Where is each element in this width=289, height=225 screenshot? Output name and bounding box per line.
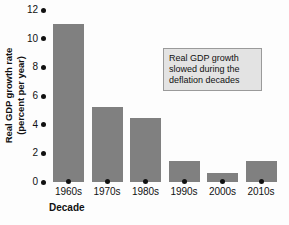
x-axis-tick-label: 1990s xyxy=(169,186,200,198)
bar xyxy=(92,107,123,182)
annotation-line-2: slowed during the xyxy=(169,64,256,75)
y-axis-title-line-1: Real GDP growth rate xyxy=(4,47,15,143)
annotation-box: Real GDP growth slowed during the deflat… xyxy=(163,48,262,91)
x-axis-tick-label: 2010s xyxy=(246,186,277,198)
annotation-line-3: deflation decades xyxy=(169,75,256,86)
x-axis-tick-label: 1980s xyxy=(130,186,161,198)
y-axis-tick-dot-icon xyxy=(41,94,46,99)
plot-area: 024681012 xyxy=(47,10,285,182)
x-axis-tick-labels: 1960s1970s1980s1990s2000s2010s xyxy=(47,186,285,200)
x-axis-tick-dot-icon xyxy=(220,179,225,184)
bar xyxy=(53,24,84,182)
x-axis-tick-dot-icon xyxy=(143,179,148,184)
x-axis-tick-dot-icon xyxy=(66,179,71,184)
annotation-line-1: Real GDP growth xyxy=(169,53,256,64)
y-axis-tick-dot-icon xyxy=(41,36,46,41)
y-axis-tick-dot-icon xyxy=(41,180,46,185)
bar xyxy=(130,118,161,183)
y-axis-tick-label: 6 xyxy=(32,91,38,101)
y-axis-tick-dot-icon xyxy=(41,122,46,127)
y-axis-tick-label: 0 xyxy=(32,177,38,187)
x-axis-tick-label: 1960s xyxy=(53,186,84,198)
y-axis-tick-label: 10 xyxy=(27,34,38,44)
chart-figure: Real GDP growth rate (percent per year) … xyxy=(0,0,289,225)
x-axis-tick-label: 2000s xyxy=(207,186,238,198)
y-axis-tick-label: 4 xyxy=(32,120,38,130)
y-axis-tick-dot-icon xyxy=(41,8,46,13)
y-axis-tick-label: 2 xyxy=(32,148,38,158)
bar-series xyxy=(47,10,285,182)
x-axis-tick-label: 1970s xyxy=(92,186,123,198)
x-axis-title: Decade xyxy=(49,202,85,214)
y-axis-title-line-2: (percent per year) xyxy=(15,47,27,143)
y-axis-title: Real GDP growth rate (percent per year) xyxy=(0,0,30,190)
x-axis-tick-dot-icon xyxy=(182,179,187,184)
x-axis-tick-dot-icon xyxy=(105,179,110,184)
y-axis-tick-label: 12 xyxy=(27,5,38,15)
y-axis-tick-dot-icon xyxy=(41,151,46,156)
y-axis-tick-dot-icon xyxy=(41,65,46,70)
y-axis-tick-label: 8 xyxy=(32,62,38,72)
x-axis-tick-dot-icon xyxy=(259,179,264,184)
